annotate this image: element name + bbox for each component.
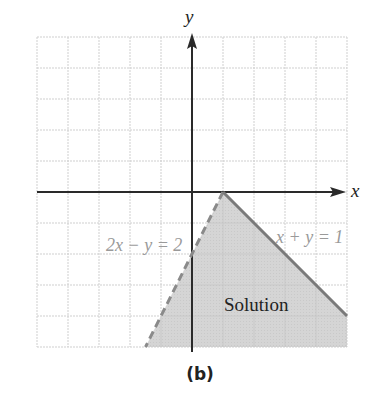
figure-caption: (b) [0, 364, 375, 384]
solid-line-label: x + y = 1 [275, 227, 343, 247]
coordinate-plane: x y 2x − y = 2 x + y = 1 Solution [0, 0, 375, 414]
y-axis-label: y [183, 6, 194, 27]
dashed-line-label: 2x − y = 2 [106, 235, 182, 255]
solution-label: Solution [224, 294, 289, 315]
x-axis-label: x [350, 180, 360, 201]
